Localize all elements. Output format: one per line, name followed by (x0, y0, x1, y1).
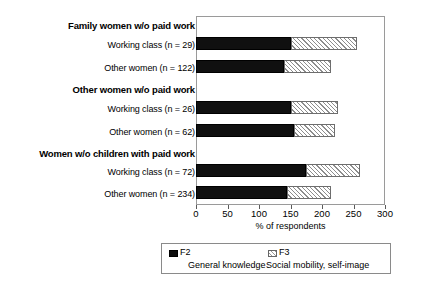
x-tick-label-100: 100 (244, 208, 274, 219)
x-tick-label-150: 150 (276, 208, 306, 219)
bar-segment-f3 (294, 124, 335, 137)
group-header-family-women: Family women w/o paid work (0, 20, 195, 31)
bar-segment-f2 (196, 60, 284, 73)
legend-swatch-f3-icon (268, 250, 277, 257)
table-row (196, 60, 385, 73)
bar-segment-f2 (196, 37, 291, 50)
row-label-g2-other-women: Other women (n = 62) (0, 127, 195, 137)
group-header-women-wo-children: Women w/o children with paid work (0, 148, 195, 159)
table-row (196, 37, 385, 50)
row-label-g2-working-class: Working class (n = 26) (0, 104, 195, 114)
row-label-g1-other-women: Other women (n = 122) (0, 63, 195, 73)
x-tick-label-300: 300 (370, 208, 400, 219)
x-tick-label-200: 200 (307, 208, 337, 219)
x-tick-label-0: 0 (181, 208, 211, 219)
legend-swatch-f2-icon (169, 250, 178, 257)
bar-segment-f3 (291, 101, 338, 114)
table-row (196, 124, 385, 137)
legend-key-f3: F3 (279, 247, 290, 257)
bar-segment-f2 (196, 164, 306, 177)
legend: F2 General knowledge F3 Social mobility,… (161, 243, 391, 274)
row-label-g3-working-class: Working class (n = 72) (0, 167, 195, 177)
x-tick-label-250: 250 (339, 208, 369, 219)
x-tick-label-50: 50 (213, 208, 243, 219)
table-row (196, 186, 385, 199)
bar-segment-f3 (284, 60, 331, 73)
legend-description-f2: General knowledge (188, 260, 266, 270)
legend-key-f2: F2 (180, 247, 191, 257)
legend-description-f3: Social mobility, self-image (266, 260, 369, 270)
table-row (196, 164, 385, 177)
bar-segment-f2 (196, 101, 291, 114)
x-axis-title: % of respondents (196, 221, 385, 231)
bar-segment-f2 (196, 186, 287, 199)
table-row (196, 101, 385, 114)
group-header-other-women-wo-paid-work: Other women w/o paid work (0, 84, 195, 95)
row-label-g3-other-women: Other women (n = 234) (0, 189, 195, 199)
bar-chart: Family women w/o paid work Working class… (0, 0, 423, 282)
bar-segment-f3 (306, 164, 360, 177)
bar-segment-f3 (287, 186, 331, 199)
row-label-g1-working-class: Working class (n = 29) (0, 40, 195, 50)
bar-segment-f3 (291, 37, 357, 50)
bar-segment-f2 (196, 124, 294, 137)
